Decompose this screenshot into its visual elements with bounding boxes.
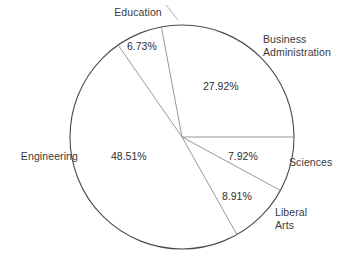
slice-value-sciences: 7.92%: [228, 150, 258, 163]
slice-label-liberal-arts: Liberal Arts: [275, 206, 335, 231]
slice-value-liberal-arts: 8.91%: [222, 190, 252, 203]
slice-label-sciences: Sciences: [289, 156, 353, 169]
slice-label-education: Education: [96, 6, 180, 19]
slice-value-business-administration: 27.92%: [203, 80, 239, 93]
pie-chart: Education Business Administration Scienc…: [0, 0, 353, 269]
slice-value-engineering: 48.51%: [111, 150, 147, 163]
slice-label-business-administration: Business Administration: [263, 33, 353, 58]
slice-value-education: 6.73%: [127, 40, 157, 53]
slice-label-engineering: Engineering: [4, 150, 78, 163]
